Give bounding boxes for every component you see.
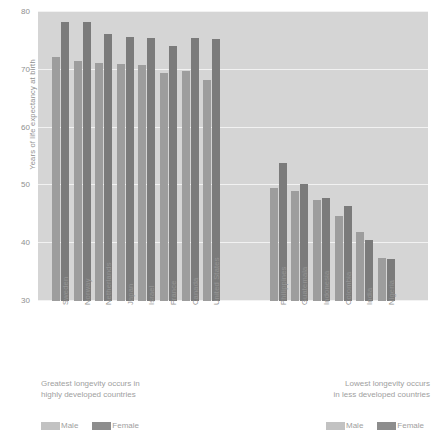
bar-male xyxy=(74,61,82,301)
category-label: Israel xyxy=(147,285,156,305)
caption-developed: Greatest longevity occurs in highly deve… xyxy=(41,378,221,400)
bar-male xyxy=(52,57,60,301)
category-label: Indonesia xyxy=(322,271,331,305)
bar-male xyxy=(138,65,146,301)
gridline xyxy=(38,11,428,12)
bar-female xyxy=(191,38,199,301)
bar-male xyxy=(335,216,343,301)
category-label: Nigeria xyxy=(387,280,396,305)
bar-male xyxy=(356,232,364,301)
bar-male xyxy=(313,200,321,301)
bar-male xyxy=(160,73,168,301)
legend-label-female: Female xyxy=(112,421,139,430)
legend-less-developed: Male Female xyxy=(326,421,435,430)
bar-female xyxy=(126,37,134,301)
bar-male xyxy=(95,63,103,301)
category-label: Norway xyxy=(83,278,92,305)
bar-female xyxy=(61,22,69,301)
legend-developed: Male Female xyxy=(41,421,153,430)
category-label: United States xyxy=(212,257,221,305)
legend-swatch-female xyxy=(92,422,111,430)
plot-area xyxy=(38,12,428,301)
category-label: Canada xyxy=(191,278,200,305)
category-label: Guatemala xyxy=(300,267,309,306)
bar-male xyxy=(117,64,125,301)
category-label: Sweden xyxy=(61,277,70,305)
legend-swatch-female xyxy=(377,422,396,430)
y-axis-tick: 30 xyxy=(0,297,30,305)
caption-less-developed: Lowest longevity occurs in less develope… xyxy=(330,378,430,400)
bar-male xyxy=(378,258,386,301)
legend-label-male: Male xyxy=(346,421,363,430)
bar-male xyxy=(270,188,278,301)
life-expectancy-bar-chart: Years of life expectancy at birth 304050… xyxy=(0,0,435,445)
category-label: Japan xyxy=(126,284,135,305)
bar-female xyxy=(147,38,155,301)
bar-female xyxy=(104,34,112,301)
bar-female xyxy=(83,22,91,301)
category-label: India xyxy=(365,288,374,305)
bar-male xyxy=(182,71,190,301)
category-label: Philippines xyxy=(279,267,288,305)
legend-swatch-male xyxy=(41,422,60,430)
category-label: Netherlands xyxy=(104,262,113,305)
y-axis-tick: 80 xyxy=(0,8,30,16)
legend-label-male: Male xyxy=(61,421,78,430)
y-axis-tick: 40 xyxy=(0,239,30,247)
y-axis-tick: 50 xyxy=(0,181,30,189)
y-axis-label: Years of life expectancy at birth xyxy=(28,25,37,205)
y-axis-tick: 70 xyxy=(0,66,30,74)
y-axis-tick: 60 xyxy=(0,124,30,132)
category-label: Colombia xyxy=(344,272,353,305)
category-label: France xyxy=(169,280,178,305)
bar-male xyxy=(291,191,299,301)
legend-label-female: Female xyxy=(397,421,424,430)
bar-male xyxy=(203,80,211,301)
legend-swatch-male xyxy=(326,422,345,430)
bar-female xyxy=(169,46,177,301)
